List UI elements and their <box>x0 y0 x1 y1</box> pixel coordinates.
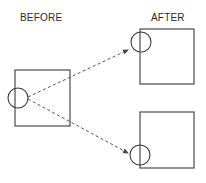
before-label: BEFORE <box>20 13 62 23</box>
after-bottom-square <box>140 112 194 168</box>
after-top-group <box>131 29 194 84</box>
after-top-square <box>140 29 194 84</box>
before-after-diagram <box>0 0 206 183</box>
after-top-circle <box>131 32 151 52</box>
arrow-to-top <box>28 50 128 97</box>
after-bottom-group <box>130 112 194 168</box>
after-label: AFTER <box>151 13 185 23</box>
before-circle <box>8 88 28 108</box>
before-group <box>8 70 70 126</box>
